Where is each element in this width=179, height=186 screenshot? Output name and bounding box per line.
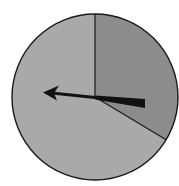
spinner-diagram — [0, 0, 179, 186]
